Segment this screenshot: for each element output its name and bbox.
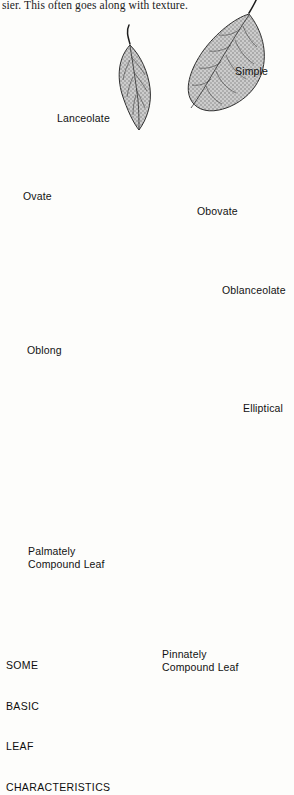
label-oblong: Oblong <box>27 344 62 357</box>
label-lanceolate: Lanceolate <box>57 112 110 125</box>
label-simple: Simple <box>235 65 268 78</box>
leaf-lanceolate <box>119 25 150 130</box>
label-elliptical: Elliptical <box>243 402 283 415</box>
caption-line-3: LEAF <box>6 740 110 754</box>
label-pinnately-compound-line1: Pinnately <box>162 648 239 661</box>
caption-line-2: BASIC <box>6 700 110 714</box>
leaf-simple <box>188 0 264 111</box>
label-obovate: Obovate <box>197 205 238 218</box>
caption-line-1: SOME <box>6 659 110 673</box>
label-palmately-compound-line1: Palmately <box>28 545 105 558</box>
caption-line-4: CHARACTERISTICS <box>6 781 110 795</box>
label-pinnately-compound-line2: Compound Leaf <box>162 661 239 674</box>
label-ovate: Ovate <box>23 190 52 203</box>
label-palmately-compound: Palmately Compound Leaf <box>28 545 105 571</box>
figure-caption: SOME BASIC LEAF CHARACTERISTICS <box>6 632 110 795</box>
label-oblanceolate: Oblanceolate <box>222 284 286 297</box>
label-pinnately-compound: Pinnately Compound Leaf <box>162 648 239 674</box>
label-palmately-compound-line2: Compound Leaf <box>28 558 105 571</box>
